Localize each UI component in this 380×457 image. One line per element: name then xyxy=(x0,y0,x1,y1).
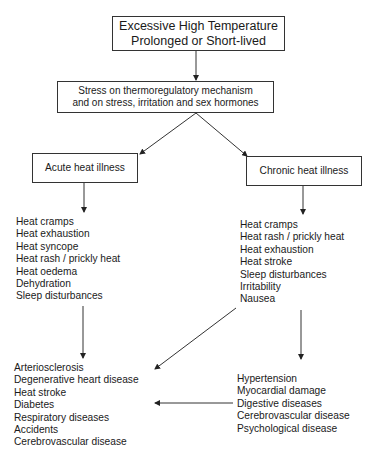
top-box-line-2: Prolonged or Short-lived xyxy=(131,34,266,49)
excessive-temperature-box: Excessive High Temperature Prolonged or … xyxy=(112,16,285,51)
thermoregulatory-stress-box: Stress on thermoregulatory mechanism and… xyxy=(57,81,274,113)
list-item: Heat rash / prickly heat xyxy=(240,231,344,243)
list-item: Arteriosclerosis xyxy=(14,362,139,374)
list-item: Heat stroke xyxy=(14,387,139,399)
list-item: Heat exhaustion xyxy=(240,244,344,256)
stress-box-line-2: and on stress, irritation and sex hormon… xyxy=(72,97,258,109)
chronic-box-label: Chronic heat illness xyxy=(260,165,349,177)
acute-heat-illness-box: Acute heat illness xyxy=(32,153,138,183)
list-item: Irritability xyxy=(240,281,344,293)
chronic-outcomes-list: Hypertension Myocardial damage Digestive… xyxy=(237,373,350,435)
list-item: Digestive diseases xyxy=(237,398,350,410)
list-item: Heat rash / prickly heat xyxy=(16,253,120,265)
list-item: Heat syncope xyxy=(16,241,120,253)
list-item: Heat oedema xyxy=(16,266,120,278)
chronic-heat-illness-box: Chronic heat illness xyxy=(246,156,362,186)
acute-symptoms-list: Heat cramps Heat exhaustion Heat syncope… xyxy=(16,216,120,303)
list-item: Cerebrovascular disease xyxy=(14,436,139,448)
list-item: Sleep disturbances xyxy=(16,290,120,302)
list-item: Dehydration xyxy=(16,278,120,290)
list-item: Degenerative heart disease xyxy=(14,374,139,386)
list-item: Cerebrovascular disease xyxy=(237,410,350,422)
list-item: Heat exhaustion xyxy=(16,228,120,240)
list-item: Respiratory diseases xyxy=(14,412,139,424)
list-item: Hypertension xyxy=(237,373,350,385)
list-item: Myocardial damage xyxy=(237,385,350,397)
list-item: Psychological disease xyxy=(237,423,350,435)
list-item: Sleep disturbances xyxy=(240,269,344,281)
acute-box-label: Acute heat illness xyxy=(45,162,125,174)
list-item: Diabetes xyxy=(14,399,139,411)
list-item: Accidents xyxy=(14,424,139,436)
chronic-symptoms-list: Heat cramps Heat rash / prickly heat Hea… xyxy=(240,219,344,306)
list-item: Heat stroke xyxy=(240,256,344,268)
list-item: Heat cramps xyxy=(16,216,120,228)
top-box-line-1: Excessive High Temperature xyxy=(119,19,278,34)
acute-outcomes-list: Arteriosclerosis Degenerative heart dise… xyxy=(14,362,139,449)
list-item: Nausea xyxy=(240,293,344,305)
list-item: Heat cramps xyxy=(240,219,344,231)
stress-box-line-1: Stress on thermoregulatory mechanism xyxy=(78,85,253,97)
